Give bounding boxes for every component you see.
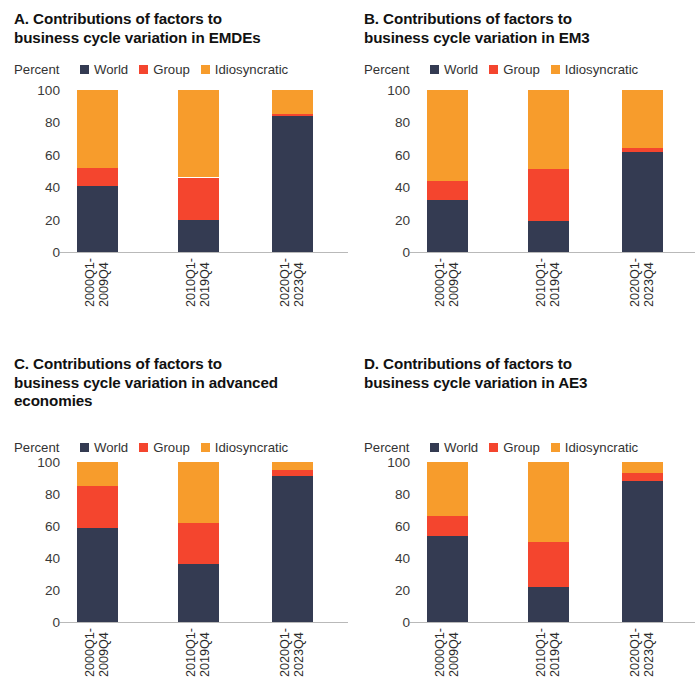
- legend-item-idiosyncratic-d: Idiosyncratic: [551, 440, 638, 455]
- bar-segment-world: [528, 587, 569, 622]
- x-axis-tick-label: 2000Q1- 2009Q4: [433, 628, 461, 677]
- y-axis-tick-label: 80: [395, 115, 410, 130]
- y-axis-unit-label-b: Percent: [364, 62, 430, 77]
- y-axis-unit-label-c: Percent: [14, 440, 80, 455]
- legend-label: World: [94, 62, 128, 77]
- x-axis-tick-label: 2020Q1- 2023Q4: [278, 258, 306, 307]
- panel-title-c: C. Contributions of factors to business …: [14, 355, 344, 411]
- legend-square-swatch-icon: [551, 443, 560, 452]
- chart-legend-b: PercentWorldGroupIdiosyncratic: [364, 62, 693, 77]
- y-axis-tick-label: 40: [45, 180, 60, 195]
- legend-square-swatch-icon: [139, 443, 148, 452]
- bar-segment-group: [272, 114, 313, 116]
- y-axis-tick-label: 0: [52, 245, 60, 260]
- chart-legend-a: PercentWorldGroupIdiosyncratic: [14, 62, 346, 77]
- bar-segment-group: [622, 148, 663, 151]
- stacked-bar: [272, 462, 313, 622]
- bar-segment-idiosyncratic: [272, 90, 313, 114]
- bars-container-a: [68, 90, 350, 252]
- plot-area-b: 100806040200: [350, 90, 697, 252]
- x-axis-tick-label: 2000Q1- 2009Q4: [433, 258, 461, 307]
- bar-segment-world: [427, 536, 468, 622]
- legend-item-idiosyncratic-c: Idiosyncratic: [201, 440, 288, 455]
- bar-segment-world: [272, 116, 313, 252]
- chart-legend-d: PercentWorldGroupIdiosyncratic: [364, 440, 693, 455]
- legend-label: Group: [153, 440, 190, 455]
- x-axis-baseline-c: [60, 622, 348, 623]
- legend-label: World: [444, 440, 478, 455]
- x-axis-baseline-a: [60, 252, 348, 253]
- legend-item-world-d: World: [430, 440, 478, 455]
- y-axis-tick-label: 80: [45, 487, 60, 502]
- legend-label: Group: [503, 440, 540, 455]
- stacked-bar: [622, 462, 663, 622]
- bar-segment-idiosyncratic: [622, 462, 663, 473]
- legend-square-swatch-icon: [489, 65, 498, 74]
- y-axis-tick-label: 60: [395, 147, 410, 162]
- bar-segment-world: [622, 481, 663, 622]
- x-axis-tick-label: 2010Q1- 2019Q4: [184, 258, 212, 307]
- bar-segment-group: [178, 178, 219, 220]
- y-axis-unit-label-d: Percent: [364, 440, 430, 455]
- y-axis-b: 100806040200: [350, 90, 418, 252]
- chart-panel-b: B. Contributions of factors to business …: [350, 0, 697, 345]
- legend-label: World: [94, 440, 128, 455]
- legend-square-swatch-icon: [201, 65, 210, 74]
- legend-item-world-c: World: [80, 440, 128, 455]
- legend-square-swatch-icon: [139, 65, 148, 74]
- bars-container-d: [418, 462, 697, 622]
- y-axis-a: 100806040200: [0, 90, 68, 252]
- stacked-bar: [528, 462, 569, 622]
- bar-segment-idiosyncratic: [528, 90, 569, 169]
- stacked-bar: [272, 90, 313, 252]
- bar-segment-group: [77, 486, 118, 528]
- legend-item-world-b: World: [430, 62, 478, 77]
- legend-label: Idiosyncratic: [215, 440, 288, 455]
- bar-segment-world: [622, 152, 663, 252]
- y-axis-tick-label: 100: [37, 455, 60, 470]
- legend-square-swatch-icon: [489, 443, 498, 452]
- x-axis-tick-label: 2010Q1- 2019Q4: [534, 258, 562, 307]
- legend-square-swatch-icon: [551, 65, 560, 74]
- figure-grid: A. Contributions of factors to business …: [0, 0, 697, 690]
- y-axis-c: 100806040200: [0, 462, 68, 622]
- panel-title-d: D. Contributions of factors to business …: [364, 355, 691, 392]
- x-axis-tick-label: 2000Q1- 2009Q4: [83, 628, 111, 677]
- legend-item-group-a: Group: [139, 62, 190, 77]
- x-axis-tick-label: 2010Q1- 2019Q4: [184, 628, 212, 677]
- y-axis-tick-label: 20: [395, 212, 410, 227]
- chart-panel-a: A. Contributions of factors to business …: [0, 0, 350, 345]
- bar-segment-group: [528, 542, 569, 587]
- bar-segment-world: [427, 200, 468, 252]
- y-axis-d: 100806040200: [350, 462, 418, 622]
- legend-square-swatch-icon: [80, 65, 89, 74]
- bar-segment-idiosyncratic: [427, 462, 468, 516]
- stacked-bar: [77, 90, 118, 252]
- legend-square-swatch-icon: [430, 65, 439, 74]
- bar-segment-idiosyncratic: [77, 90, 118, 168]
- legend-item-idiosyncratic-b: Idiosyncratic: [551, 62, 638, 77]
- y-axis-tick-label: 80: [395, 487, 410, 502]
- bar-segment-idiosyncratic: [178, 462, 219, 523]
- x-axis-tick-label: 2020Q1- 2023Q4: [628, 628, 656, 677]
- bar-segment-world: [178, 220, 219, 252]
- y-axis-tick-label: 40: [395, 180, 410, 195]
- stacked-bar: [427, 462, 468, 622]
- x-axis-baseline-b: [410, 252, 695, 253]
- bars-container-c: [68, 462, 350, 622]
- bar-segment-idiosyncratic: [178, 90, 219, 177]
- x-axis-tick-label: 2000Q1- 2009Q4: [83, 258, 111, 307]
- legend-label: World: [444, 62, 478, 77]
- stacked-bar: [622, 90, 663, 252]
- legend-square-swatch-icon: [80, 443, 89, 452]
- y-axis-tick-label: 80: [45, 115, 60, 130]
- bar-segment-idiosyncratic: [427, 90, 468, 181]
- x-axis-tick-label: 2020Q1- 2023Q4: [278, 628, 306, 677]
- stacked-bar: [178, 462, 219, 622]
- plot-area-c: 100806040200: [0, 462, 350, 622]
- x-axis-baseline-d: [410, 622, 695, 623]
- y-axis-tick-label: 0: [402, 245, 410, 260]
- stacked-bar: [528, 90, 569, 252]
- legend-label: Group: [503, 62, 540, 77]
- bar-segment-group: [622, 473, 663, 481]
